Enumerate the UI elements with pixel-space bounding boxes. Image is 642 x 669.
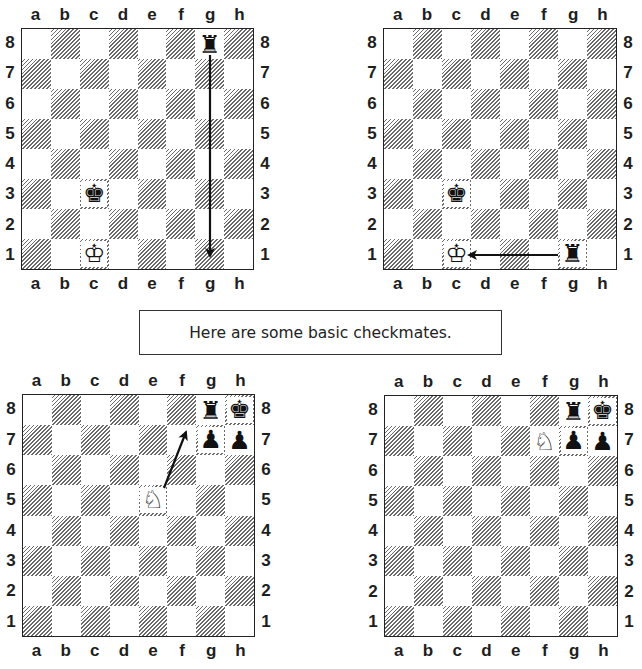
square-h8[interactable] bbox=[224, 29, 253, 59]
square-g8[interactable]: ♜ bbox=[195, 29, 224, 59]
square-a6[interactable] bbox=[384, 89, 413, 119]
square-f7[interactable] bbox=[166, 59, 195, 89]
square-c3[interactable] bbox=[443, 546, 472, 576]
square-b6[interactable] bbox=[52, 455, 81, 485]
square-e3[interactable] bbox=[501, 546, 530, 576]
square-c2[interactable] bbox=[81, 576, 110, 606]
square-d8[interactable] bbox=[471, 29, 500, 59]
square-h4[interactable] bbox=[588, 516, 617, 546]
square-f4[interactable] bbox=[167, 516, 196, 546]
square-e4[interactable] bbox=[138, 149, 167, 179]
square-c6[interactable] bbox=[80, 89, 109, 119]
square-h8[interactable] bbox=[587, 29, 616, 59]
square-h8[interactable]: ♚ bbox=[225, 395, 254, 425]
square-g3[interactable] bbox=[559, 546, 588, 576]
square-e7[interactable] bbox=[500, 59, 529, 89]
square-f6[interactable] bbox=[530, 456, 559, 486]
square-a4[interactable] bbox=[384, 149, 413, 179]
square-d2[interactable] bbox=[109, 209, 138, 239]
square-g4[interactable] bbox=[559, 516, 588, 546]
square-b5[interactable] bbox=[52, 485, 81, 515]
square-c7[interactable] bbox=[80, 59, 109, 89]
square-a7[interactable] bbox=[22, 59, 51, 89]
white-king-icon[interactable]: ♔ bbox=[444, 241, 470, 267]
square-c5[interactable] bbox=[81, 485, 110, 515]
square-b3[interactable] bbox=[51, 179, 80, 209]
square-a4[interactable] bbox=[22, 149, 51, 179]
square-f7[interactable] bbox=[167, 425, 196, 455]
square-e8[interactable] bbox=[139, 395, 168, 425]
square-c3[interactable]: ♚ bbox=[80, 179, 109, 209]
square-g8[interactable]: ♜ bbox=[196, 395, 225, 425]
black-pawn-icon[interactable]: ♟ bbox=[561, 428, 587, 454]
square-d7[interactable] bbox=[110, 425, 139, 455]
square-g6[interactable] bbox=[558, 89, 587, 119]
square-a2[interactable] bbox=[23, 576, 52, 606]
square-e6[interactable] bbox=[139, 455, 168, 485]
square-c6[interactable] bbox=[442, 89, 471, 119]
square-b6[interactable] bbox=[413, 89, 442, 119]
square-c6[interactable] bbox=[443, 456, 472, 486]
square-b3[interactable] bbox=[52, 546, 81, 576]
black-king-icon[interactable]: ♚ bbox=[81, 181, 107, 207]
black-rook-icon[interactable]: ♜ bbox=[560, 241, 586, 267]
square-e3[interactable] bbox=[500, 179, 529, 209]
square-e1[interactable] bbox=[139, 606, 168, 636]
square-e2[interactable] bbox=[500, 209, 529, 239]
square-f5[interactable] bbox=[530, 486, 559, 516]
square-c4[interactable] bbox=[443, 516, 472, 546]
square-d6[interactable] bbox=[471, 89, 500, 119]
square-e4[interactable] bbox=[139, 516, 168, 546]
square-d1[interactable] bbox=[471, 239, 500, 269]
square-b7[interactable] bbox=[52, 425, 81, 455]
square-a2[interactable] bbox=[384, 209, 413, 239]
square-d3[interactable] bbox=[110, 546, 139, 576]
square-b2[interactable] bbox=[51, 209, 80, 239]
black-rook-icon[interactable]: ♜ bbox=[198, 32, 220, 57]
square-d7[interactable] bbox=[471, 59, 500, 89]
square-a5[interactable] bbox=[385, 486, 414, 516]
square-c1[interactable]: ♔ bbox=[80, 239, 109, 269]
square-e6[interactable] bbox=[501, 456, 530, 486]
square-b1[interactable] bbox=[51, 239, 80, 269]
square-d1[interactable] bbox=[110, 606, 139, 636]
square-f3[interactable] bbox=[530, 546, 559, 576]
square-a5[interactable] bbox=[22, 119, 51, 149]
square-f2[interactable] bbox=[167, 576, 196, 606]
square-b6[interactable] bbox=[51, 89, 80, 119]
square-e5[interactable] bbox=[138, 119, 167, 149]
square-c6[interactable] bbox=[81, 455, 110, 485]
square-h7[interactable] bbox=[587, 59, 616, 89]
square-g4[interactable] bbox=[196, 516, 225, 546]
square-b1[interactable] bbox=[414, 606, 443, 636]
square-b3[interactable] bbox=[413, 179, 442, 209]
square-d3[interactable] bbox=[471, 179, 500, 209]
square-c5[interactable] bbox=[443, 486, 472, 516]
square-c7[interactable] bbox=[442, 59, 471, 89]
square-a5[interactable] bbox=[23, 485, 52, 515]
square-e5[interactable] bbox=[500, 119, 529, 149]
square-b8[interactable] bbox=[414, 396, 443, 426]
square-a2[interactable] bbox=[385, 576, 414, 606]
square-a1[interactable] bbox=[22, 239, 51, 269]
square-a1[interactable] bbox=[384, 239, 413, 269]
square-d2[interactable] bbox=[110, 576, 139, 606]
square-b4[interactable] bbox=[51, 149, 80, 179]
square-h2[interactable] bbox=[225, 576, 254, 606]
square-b2[interactable] bbox=[413, 209, 442, 239]
square-e2[interactable] bbox=[139, 576, 168, 606]
white-knight-icon[interactable]: ♘ bbox=[533, 429, 555, 454]
square-g8[interactable]: ♜ bbox=[559, 396, 588, 426]
square-a4[interactable] bbox=[385, 516, 414, 546]
square-f6[interactable] bbox=[529, 89, 558, 119]
square-c7[interactable] bbox=[443, 426, 472, 456]
square-e7[interactable] bbox=[139, 425, 168, 455]
square-g7[interactable] bbox=[195, 59, 224, 89]
square-c8[interactable] bbox=[80, 29, 109, 59]
square-b2[interactable] bbox=[414, 576, 443, 606]
square-f2[interactable] bbox=[530, 576, 559, 606]
square-h2[interactable] bbox=[588, 576, 617, 606]
square-f2[interactable] bbox=[166, 209, 195, 239]
square-c1[interactable]: ♔ bbox=[442, 239, 471, 269]
square-h5[interactable] bbox=[587, 119, 616, 149]
